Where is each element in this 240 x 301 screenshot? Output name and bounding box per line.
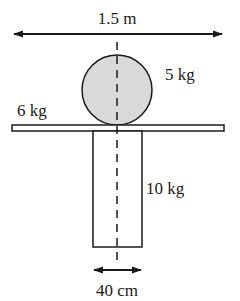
column-width-label: 40 cm bbox=[96, 281, 138, 300]
column-mass-label: 10 kg bbox=[146, 179, 185, 198]
top-width-label: 1.5 m bbox=[98, 9, 137, 28]
ball-mass-label: 5 kg bbox=[165, 65, 195, 84]
diagram-canvas: 1.5 m 5 kg 6 kg 10 kg 40 cm bbox=[0, 0, 240, 301]
plank bbox=[12, 125, 224, 131]
plank-mass-label: 6 kg bbox=[17, 101, 47, 120]
